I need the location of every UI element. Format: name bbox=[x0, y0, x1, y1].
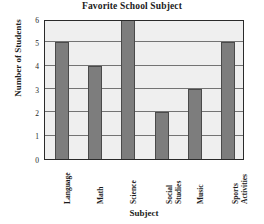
y-tick-label: 3 bbox=[22, 87, 39, 95]
gridline bbox=[45, 41, 243, 42]
gridline bbox=[45, 111, 243, 112]
x-tick-label: Science bbox=[130, 180, 139, 204]
y-axis-tick-labels: 6543210 bbox=[22, 20, 39, 160]
bar bbox=[188, 89, 202, 159]
bar bbox=[221, 42, 235, 159]
x-axis-title: Subject bbox=[44, 208, 244, 218]
gridline bbox=[45, 65, 243, 66]
y-tick-label: 6 bbox=[22, 17, 39, 25]
y-tick-label: 2 bbox=[22, 110, 39, 118]
x-tick-label: Math bbox=[97, 187, 106, 205]
x-tick-label: SportsActivities bbox=[232, 174, 249, 204]
x-axis-category-labels: LanguageMathScienceSocialStudiesMusicSpo… bbox=[44, 160, 244, 208]
bar bbox=[121, 20, 135, 159]
y-tick-label: 4 bbox=[22, 63, 39, 71]
chart-title: Favorite School Subject bbox=[0, 1, 264, 11]
gridline bbox=[45, 88, 243, 89]
x-tick-label: Music bbox=[197, 184, 206, 204]
bar-chart: Favorite School Subject Number of Studen… bbox=[0, 0, 264, 224]
x-tick-label: SocialStudies bbox=[166, 181, 183, 204]
y-tick-label: 5 bbox=[22, 40, 39, 48]
bar bbox=[55, 42, 69, 159]
plot-inner bbox=[45, 21, 243, 159]
y-tick-label: 1 bbox=[22, 133, 39, 141]
bar bbox=[88, 66, 102, 159]
gridline bbox=[45, 135, 243, 136]
y-tick-label: 0 bbox=[22, 157, 39, 165]
plot-area bbox=[44, 20, 244, 160]
x-tick-label: Language bbox=[64, 172, 73, 204]
bar bbox=[155, 112, 169, 159]
